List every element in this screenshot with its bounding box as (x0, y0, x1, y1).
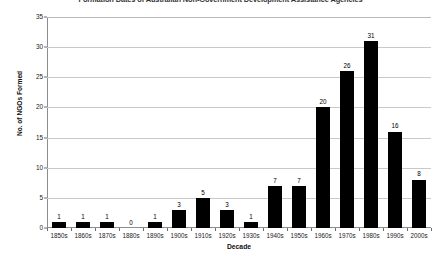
bar-group[interactable]: 1 (95, 17, 119, 228)
bar-group[interactable]: 3 (167, 17, 191, 228)
bar-group[interactable]: 26 (335, 17, 359, 228)
x-tick-mark (431, 228, 432, 231)
x-tick-mark (287, 228, 288, 231)
bar-group[interactable]: 5 (191, 17, 215, 228)
bar-group[interactable]: 7 (263, 17, 287, 228)
bar-group[interactable]: 31 (359, 17, 383, 228)
bar[interactable] (76, 222, 90, 228)
x-tick-label: 1990s (386, 233, 403, 239)
bar-group[interactable]: 3 (215, 17, 239, 228)
y-tick-label: 20 (36, 104, 43, 110)
bar[interactable] (172, 210, 186, 228)
x-tick-mark (95, 228, 96, 231)
bar-value-label: 3 (177, 202, 181, 208)
y-tick-label: 30 (36, 44, 43, 50)
x-tick-label: 1850s (50, 233, 67, 239)
x-tick-label: 1920s (218, 233, 235, 239)
bar[interactable] (268, 186, 282, 228)
x-tick-mark (71, 228, 72, 231)
bar-group[interactable]: 0 (119, 17, 143, 228)
bar-value-label: 1 (57, 214, 61, 220)
y-tick-label: 0 (39, 225, 43, 231)
bar[interactable] (220, 210, 234, 228)
x-tick-mark (119, 228, 120, 231)
x-tick-mark (239, 228, 240, 231)
x-tick-label: 1960s (314, 233, 331, 239)
y-tick-label: 10 (36, 165, 43, 171)
bar[interactable] (196, 198, 210, 228)
bar-value-label: 31 (367, 33, 374, 39)
y-axis-title: No. of NGOs Formed (16, 49, 23, 159)
bar-value-label: 16 (391, 123, 398, 129)
bar[interactable] (100, 222, 114, 228)
x-tick-mark (359, 228, 360, 231)
x-tick-mark (167, 228, 168, 231)
x-tick-label: 1860s (74, 233, 91, 239)
bar[interactable] (244, 222, 258, 228)
x-tick-label: 1940s (266, 233, 283, 239)
x-tick-label: 1870s (98, 233, 115, 239)
plot-area: 05101520253035 11101353177202631168 1850… (47, 17, 431, 228)
chart-title: Formation Dates of Australian Non-Govern… (0, 0, 441, 4)
bar-value-label: 5 (201, 190, 205, 196)
bar-value-label: 0 (129, 220, 133, 226)
bar-group[interactable]: 16 (383, 17, 407, 228)
bar-value-label: 7 (297, 178, 301, 184)
x-tick-label: 1970s (338, 233, 355, 239)
x-tick-label: 1930s (242, 233, 259, 239)
bar-value-label: 1 (249, 214, 253, 220)
bar-group[interactable]: 1 (239, 17, 263, 228)
x-axis-title: Decade (47, 243, 431, 250)
bar-group[interactable]: 8 (407, 17, 431, 228)
y-tick-label: 25 (36, 74, 43, 80)
bar[interactable] (316, 107, 330, 228)
bar[interactable] (148, 222, 162, 228)
bar[interactable] (364, 41, 378, 228)
bar-value-label: 7 (273, 178, 277, 184)
bar-value-label: 1 (81, 214, 85, 220)
x-tick-label: 1910s (194, 233, 211, 239)
bar-chart: Formation Dates of Australian Non-Govern… (0, 0, 441, 259)
bar-value-label: 8 (417, 171, 421, 177)
x-tick-mark (263, 228, 264, 231)
x-tick-mark (383, 228, 384, 231)
bar[interactable] (412, 180, 426, 228)
bar-value-label: 1 (153, 214, 157, 220)
x-tick-label: 1890s (146, 233, 163, 239)
bar-group[interactable]: 1 (143, 17, 167, 228)
x-tick-label: 1900s (170, 233, 187, 239)
bar-group[interactable]: 20 (311, 17, 335, 228)
bar-value-label: 20 (319, 99, 326, 105)
bar-group[interactable]: 1 (47, 17, 71, 228)
x-tick-label: 1980s (362, 233, 379, 239)
x-tick-mark (143, 228, 144, 231)
bar-value-label: 1 (105, 214, 109, 220)
bar[interactable] (52, 222, 66, 228)
x-tick-mark (407, 228, 408, 231)
x-tick-label: 1950s (290, 233, 307, 239)
y-tick-label: 35 (36, 14, 43, 20)
bar[interactable] (340, 71, 354, 228)
x-tick-mark (215, 228, 216, 231)
x-tick-mark (311, 228, 312, 231)
bar[interactable] (388, 132, 402, 228)
bar-group[interactable]: 7 (287, 17, 311, 228)
x-tick-mark (335, 228, 336, 231)
x-tick-label: 1880s (122, 233, 139, 239)
bar-value-label: 26 (343, 63, 350, 69)
x-tick-mark (47, 228, 48, 231)
bars-layer: 11101353177202631168 (47, 17, 431, 228)
y-tick-label: 15 (36, 134, 43, 140)
bar[interactable] (292, 186, 306, 228)
y-tick-label: 5 (39, 195, 43, 201)
x-tick-label: 2000s (410, 233, 427, 239)
x-tick-mark (191, 228, 192, 231)
bar-group[interactable]: 1 (71, 17, 95, 228)
bar-value-label: 3 (225, 202, 229, 208)
